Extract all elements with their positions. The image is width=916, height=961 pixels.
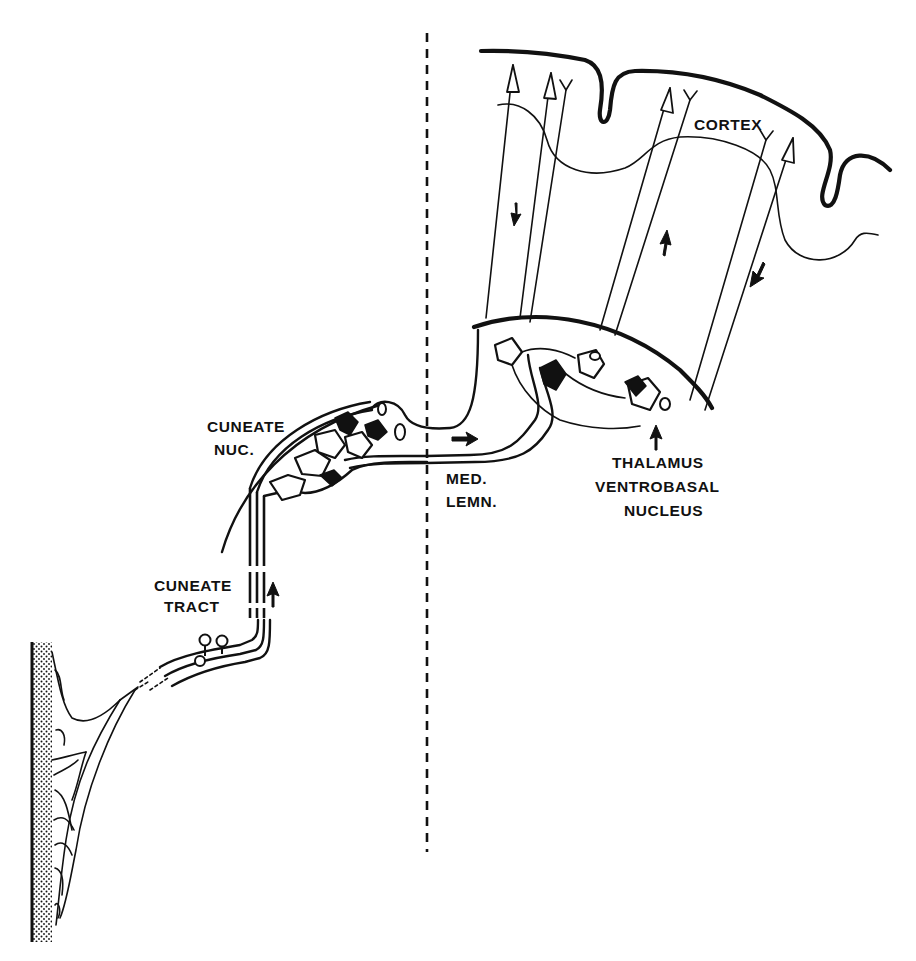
cortex-up-arrow-middle <box>660 230 671 256</box>
thalamus-ventrobasal-nucleus <box>474 317 712 428</box>
cortex <box>481 51 890 260</box>
skin <box>32 642 135 942</box>
cuneate-tract <box>246 488 268 618</box>
tract-up-arrow <box>267 582 279 607</box>
label-cuneate-nucleus-1: CUNEATE <box>207 418 285 435</box>
label-cortex: CORTEX <box>694 116 762 133</box>
label-cuneate-tract-1: CUNEATE <box>154 577 232 594</box>
label-medial-lemniscus-2: LEMN. <box>446 493 497 510</box>
label-thalamus-1: THALAMUS <box>612 454 704 471</box>
thalamus-up-arrow <box>650 425 662 450</box>
label-cuneate-tract-2: TRACT <box>164 598 220 615</box>
label-cuneate-nucleus-2: NUC. <box>214 441 254 458</box>
label-thalamus-3: NUCLEUS <box>624 502 703 519</box>
cuneate-nucleus <box>222 330 553 552</box>
cortex-down-arrow-left <box>511 203 521 226</box>
label-medial-lemniscus-1: MED. <box>446 470 487 487</box>
pathway-diagram: CORTEX CUNEATE NUC. CUNEATE TRACT MED. L… <box>0 0 916 961</box>
lemniscus-right-arrow <box>452 432 478 446</box>
label-thalamus-2: VENTROBASAL <box>595 478 720 495</box>
